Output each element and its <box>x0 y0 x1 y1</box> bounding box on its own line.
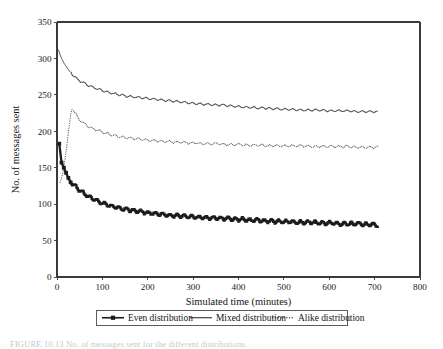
x-tick-label: 800 <box>413 282 427 292</box>
x-tick-label: 400 <box>232 282 246 292</box>
x-tick-label: 300 <box>186 282 200 292</box>
line-chart: 0501001502002503003500100200300400500600… <box>0 0 443 349</box>
x-tick-label: 200 <box>141 282 155 292</box>
x-tick-label: 0 <box>55 282 60 292</box>
data-point-marker <box>69 180 73 184</box>
tick-label-layer: 0501001502002503003500100200300400500600… <box>38 17 428 292</box>
legend-label: Alike distribution <box>298 313 365 323</box>
y-tick-label: 100 <box>38 199 52 209</box>
y-axis-title: No. of messages sent <box>10 106 21 194</box>
data-point-marker <box>64 171 68 175</box>
figure-caption: FIGURE 10.13 No. of messages sent for th… <box>10 339 430 349</box>
figure-caption-text: FIGURE 10.13 No. of messages sent for th… <box>10 339 248 349</box>
x-tick-label: 100 <box>95 282 109 292</box>
data-point-marker <box>66 176 70 180</box>
x-tick-label: 500 <box>277 282 291 292</box>
legend-swatch-even-marker <box>111 316 115 320</box>
x-tick-label: 700 <box>368 282 382 292</box>
series-layer <box>57 50 378 227</box>
x-tick-label: 600 <box>322 282 336 292</box>
y-tick-label: 0 <box>47 272 52 282</box>
y-tick-label: 150 <box>38 163 52 173</box>
y-tick-label: 300 <box>38 54 52 64</box>
figure-container: 0501001502002503003500100200300400500600… <box>0 0 443 349</box>
series-path <box>73 111 378 149</box>
y-tick-label: 50 <box>42 236 52 246</box>
y-tick-label: 250 <box>38 90 52 100</box>
data-point-marker <box>57 142 61 146</box>
y-tick-label: 350 <box>38 17 52 27</box>
series-mixed <box>58 50 377 113</box>
series-path <box>71 72 378 112</box>
legend-label: Even distribution <box>128 313 193 323</box>
series-even <box>57 142 377 227</box>
series-head-path <box>58 50 70 72</box>
x-axis-title: Simulated time (minutes) <box>186 296 292 308</box>
data-point-marker <box>60 161 64 165</box>
y-tick-label: 200 <box>38 127 52 137</box>
chart-legend: Even distributionMixed distributionAlike… <box>96 311 365 326</box>
series-alike <box>60 109 379 183</box>
series-path <box>71 183 378 227</box>
axis-layer <box>54 22 420 280</box>
